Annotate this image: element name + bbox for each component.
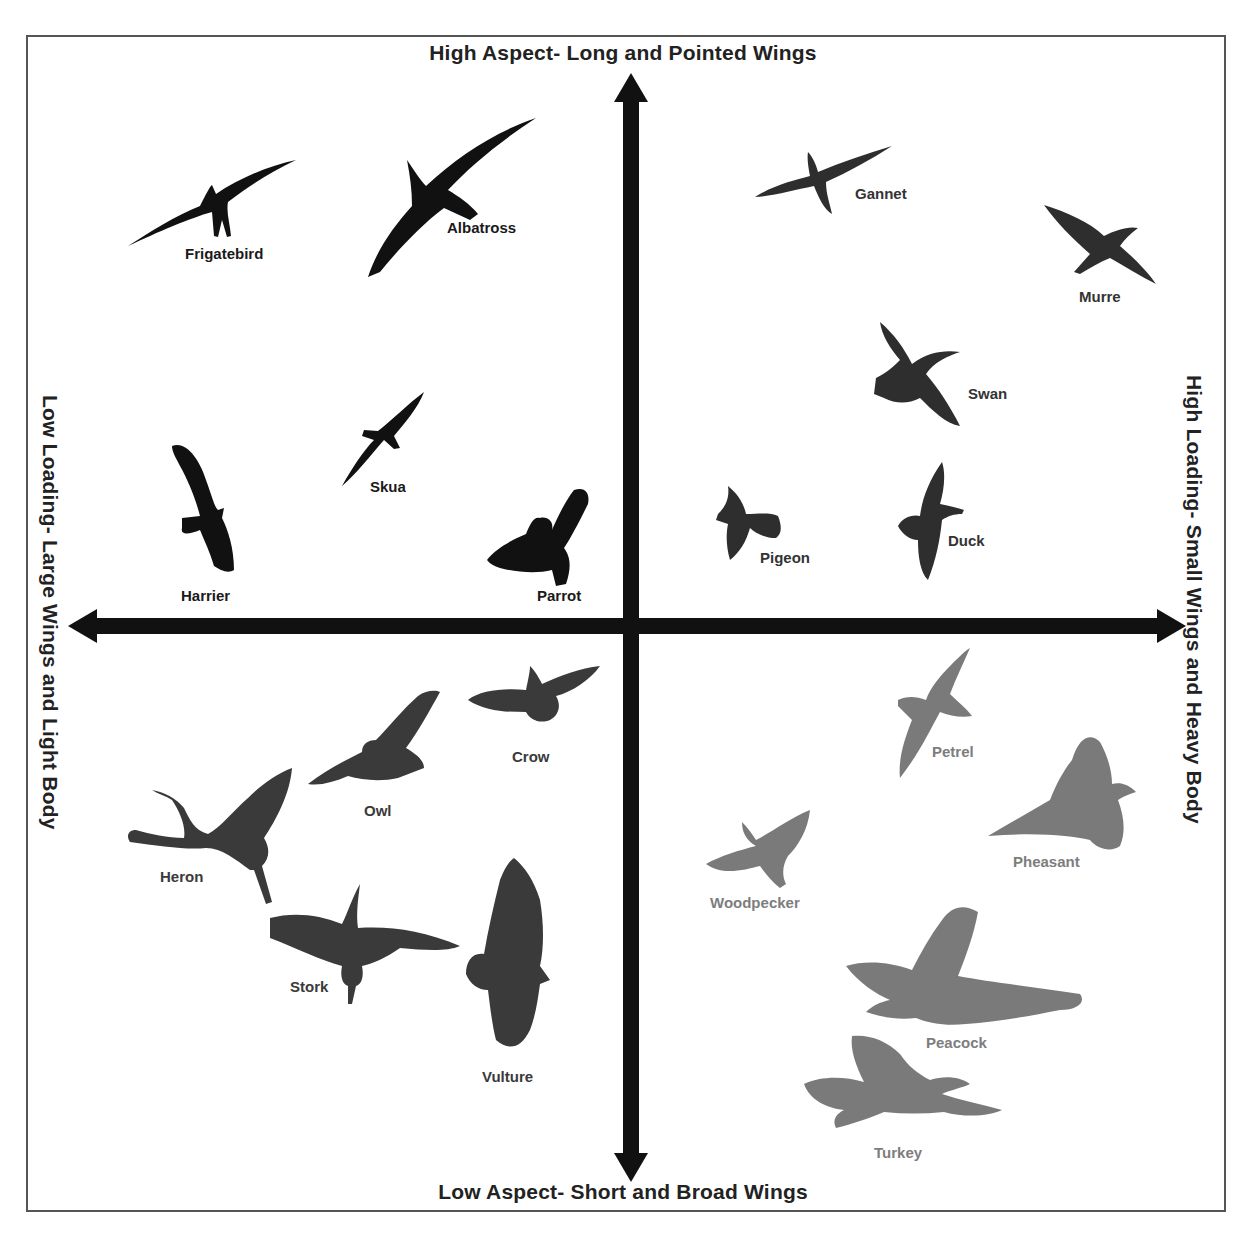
crow-silhouette-icon	[468, 666, 600, 722]
swan-silhouette-icon	[874, 322, 960, 426]
label-stork: Stork	[290, 978, 328, 995]
owl-silhouette-icon	[308, 691, 440, 785]
woodpecker-silhouette-icon	[706, 810, 810, 888]
label-skua: Skua	[370, 478, 406, 495]
label-woodpecker: Woodpecker	[710, 894, 800, 911]
harrier-silhouette-icon	[172, 445, 234, 572]
vulture-silhouette-icon	[466, 858, 550, 1047]
label-duck: Duck	[948, 532, 985, 549]
diagram-canvas	[0, 0, 1246, 1237]
label-frigatebird: Frigatebird	[185, 245, 263, 262]
heron-silhouette-icon	[128, 768, 292, 904]
label-petrel: Petrel	[932, 743, 974, 760]
label-gannet: Gannet	[855, 185, 907, 202]
albatross-silhouette-icon	[368, 118, 536, 277]
label-crow: Crow	[512, 748, 550, 765]
label-murre: Murre	[1079, 288, 1121, 305]
label-heron: Heron	[160, 868, 203, 885]
label-parrot: Parrot	[537, 587, 581, 604]
skua-silhouette-icon	[342, 392, 424, 486]
pheasant-silhouette-icon	[988, 737, 1136, 849]
peacock-silhouette-icon	[846, 907, 1082, 1024]
label-peacock: Peacock	[926, 1034, 987, 1051]
label-turkey: Turkey	[874, 1144, 922, 1161]
duck-silhouette-icon	[898, 462, 964, 580]
label-swan: Swan	[968, 385, 1007, 402]
label-vulture: Vulture	[482, 1068, 533, 1085]
gannet-silhouette-icon	[755, 146, 892, 214]
label-harrier: Harrier	[181, 587, 230, 604]
murre-silhouette-icon	[1044, 205, 1156, 284]
frigatebird-silhouette-icon	[128, 160, 296, 246]
label-pigeon: Pigeon	[760, 549, 810, 566]
label-pheasant: Pheasant	[1013, 853, 1080, 870]
parrot-silhouette-icon	[487, 489, 588, 586]
label-owl: Owl	[364, 802, 392, 819]
label-albatross: Albatross	[447, 219, 516, 236]
